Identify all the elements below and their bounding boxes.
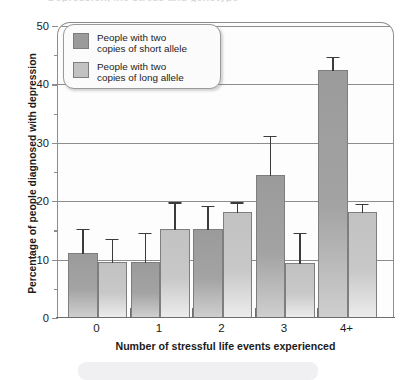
error-bar-cap	[139, 233, 152, 235]
error-bar-line	[112, 239, 114, 264]
error-bar-line	[237, 202, 239, 213]
error-bar-line	[299, 233, 301, 265]
legend-item-short-allele: People with two copies of short allele	[73, 32, 220, 55]
bar-4plus-long	[348, 212, 378, 317]
legend-swatch-long-allele	[73, 62, 89, 78]
error-bar-line	[207, 206, 209, 231]
y-tick-label-30: 30	[37, 137, 49, 149]
error-bar-line	[145, 233, 147, 263]
bar-2-long	[223, 212, 253, 317]
error-bar-cap	[293, 233, 306, 235]
y-tick-30	[52, 143, 58, 144]
x-tick-label-0: 0	[93, 321, 99, 334]
error-bar-cap	[231, 202, 244, 204]
y-minor-tick-35	[54, 114, 58, 115]
bar-1-long	[160, 229, 190, 317]
bar-0-short	[68, 253, 98, 317]
y-tick-label-50: 50	[37, 20, 49, 32]
error-bar-cap	[76, 229, 89, 231]
error-bar-line	[270, 136, 272, 176]
error-bar-line	[332, 57, 334, 71]
y-minor-tick-25	[54, 172, 58, 173]
y-axis-title: Percentage of people diagnosed with depr…	[27, 24, 38, 324]
legend-label-short-allele: People with two copies of short allele	[97, 32, 187, 55]
bar-1-short	[131, 262, 161, 317]
error-bar-cap	[326, 57, 339, 59]
error-bar-cap	[168, 202, 181, 204]
x-axis-title: Number of stressful life events experien…	[57, 340, 394, 352]
legend-swatch-short-allele	[73, 33, 89, 49]
y-tick-50	[52, 26, 58, 27]
y-tick-10	[52, 260, 58, 261]
error-bar-cap	[356, 204, 369, 206]
x-tick-label-4plus: 4+	[340, 321, 353, 334]
y-minor-tick-15	[54, 230, 58, 231]
legend-label-long-allele: People with two copies of long allele	[97, 61, 184, 84]
figure-title-sliver: Depression, life stress and genotype	[48, 0, 348, 2]
y-tick-label-0: 0	[43, 312, 49, 324]
y-tick-label-10: 10	[37, 254, 49, 266]
bar-4plus-short	[318, 70, 348, 317]
y-tick-0	[52, 318, 58, 319]
x-tick-label-3: 3	[281, 321, 287, 334]
bar-2-short	[193, 229, 223, 317]
x-tick-label-2: 2	[218, 321, 224, 334]
y-minor-tick-45	[54, 55, 58, 56]
y-tick-20	[52, 201, 58, 202]
y-minor-tick-5	[54, 289, 58, 290]
x-axis-line	[56, 317, 395, 318]
y-tick-40	[52, 84, 58, 85]
error-bar-cap	[201, 206, 214, 208]
error-bar-line	[82, 229, 84, 254]
y-tick-label-40: 40	[37, 78, 49, 90]
bar-3-short	[256, 175, 286, 317]
error-bar-line	[174, 202, 176, 230]
x-tick-label-1: 1	[156, 321, 162, 334]
bar-3-long	[285, 263, 315, 317]
y-tick-label-20: 20	[37, 195, 49, 207]
bottom-panel-sliver	[78, 362, 318, 380]
bar-0-long	[98, 262, 128, 317]
error-bar-cap	[106, 239, 119, 241]
legend-item-long-allele: People with two copies of long allele	[73, 61, 220, 84]
error-bar-cap	[264, 136, 277, 138]
legend: People with two copies of short allele P…	[63, 24, 221, 89]
